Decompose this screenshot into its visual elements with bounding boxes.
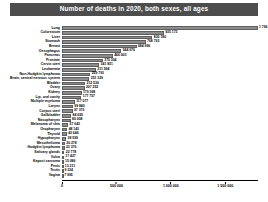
bar	[62, 31, 164, 35]
bar	[62, 36, 152, 40]
x-axis-tick: 1 000 000	[163, 182, 179, 189]
bar	[62, 105, 73, 109]
x-axis-tick: 1 500 000	[217, 182, 233, 189]
bar-category-label: Vagina	[0, 174, 62, 178]
bar-category-label: Oropharynx	[0, 128, 62, 132]
x-axis-tick-label: 1 500 000	[217, 185, 233, 189]
bar-chart-plot-area: Lung1 796 144Colorectum935 173Liver830 1…	[0, 26, 268, 180]
bar	[62, 49, 121, 53]
bar	[62, 91, 82, 95]
x-axis-tick: 0	[61, 182, 63, 189]
bar-category-label: Leukaemia	[0, 68, 62, 72]
bar-category-label: Salivary glands	[0, 151, 62, 155]
bar	[62, 77, 89, 81]
x-axis-line	[62, 180, 258, 181]
page-title: Number of deaths in 2020, both sexes, al…	[60, 6, 209, 12]
bar-category-label: Breast	[0, 45, 62, 49]
x-axis-tick-label: 500 000	[110, 185, 123, 189]
x-axis-tick-label: 1 000 000	[163, 185, 179, 189]
bar	[62, 40, 146, 44]
bar	[62, 26, 258, 30]
bar-value-label: 684 996	[137, 45, 151, 48]
bar-category-label: Larynx	[0, 105, 62, 109]
bar-row: Vagina7 995	[0, 174, 268, 179]
bar	[62, 73, 90, 77]
x-axis-tick-label: 0	[61, 185, 63, 189]
bar	[62, 100, 75, 104]
chart-figure: Number of deaths in 2020, both sexes, al…	[0, 0, 268, 202]
x-axis-tick-labels: 0500 0001 000 0001 500 000	[62, 182, 258, 194]
bar-value-label: 7 995	[63, 174, 73, 177]
bar-track: 7 995	[62, 174, 268, 179]
chart-title-banner: Number of deaths in 2020, both sexes, al…	[10, 3, 258, 16]
bar	[62, 63, 99, 67]
bar	[62, 109, 73, 113]
x-axis-tick: 500 000	[110, 182, 123, 189]
bar	[62, 82, 85, 86]
bar	[62, 114, 71, 118]
bar	[62, 59, 103, 63]
bar-value-label: 1 796 144	[258, 27, 268, 30]
bar	[62, 86, 85, 90]
